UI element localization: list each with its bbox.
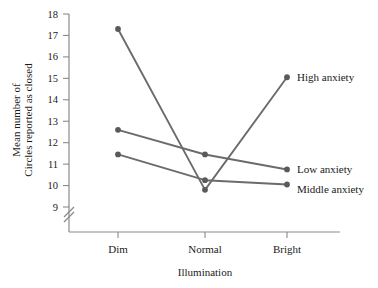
series-label-middle-anxiety: Middle anxiety: [297, 183, 364, 195]
line-chart: 9101112131415161718 DimNormalBright High…: [0, 0, 378, 288]
data-point-marker: [202, 152, 208, 158]
x-tick-label: Bright: [273, 243, 301, 255]
data-point-marker: [284, 182, 290, 188]
data-point-marker: [284, 74, 290, 80]
series-label-low-anxiety: Low anxiety: [297, 163, 353, 175]
y-tick-label: 17: [48, 30, 59, 41]
chart-figure: 9101112131415161718 DimNormalBright High…: [0, 0, 378, 288]
y-tick-label: 9: [53, 202, 58, 213]
data-point-marker: [115, 127, 121, 133]
y-axis-title-line2: Circles reported as closed: [22, 63, 34, 177]
series-labels: High anxietyLow anxietyMiddle anxiety: [297, 71, 364, 195]
series-line: [118, 130, 287, 170]
x-axis-title: Illumination: [178, 266, 233, 278]
y-tick-label: 10: [48, 180, 59, 191]
data-point-marker: [202, 187, 208, 193]
y-tick-label: 13: [48, 116, 59, 127]
axes: [64, 14, 340, 232]
y-tick-label: 18: [48, 9, 59, 20]
data-point-marker: [202, 177, 208, 183]
data-point-marker: [284, 167, 290, 173]
data-point-marker: [115, 26, 121, 32]
y-tick-label: 16: [48, 51, 59, 62]
x-axis-ticks: DimNormalBright: [108, 232, 301, 255]
y-axis-title-line1: Mean number of: [10, 83, 22, 157]
series-label-high-anxiety: High anxiety: [297, 71, 355, 83]
y-axis-ticks: 9101112131415161718: [48, 9, 70, 213]
x-tick-label: Dim: [108, 243, 128, 255]
data-series: [115, 26, 290, 193]
data-point-marker: [115, 152, 121, 158]
y-tick-label: 11: [48, 159, 58, 170]
y-tick-label: 15: [48, 73, 59, 84]
y-tick-label: 12: [48, 137, 59, 148]
x-tick-label: Normal: [188, 243, 222, 255]
y-axis-title: Mean number of Circles reported as close…: [10, 63, 34, 177]
y-tick-label: 14: [48, 94, 59, 105]
